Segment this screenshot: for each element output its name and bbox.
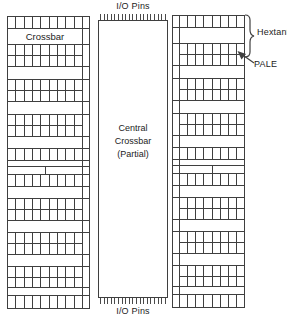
cell	[40, 149, 48, 160]
blank-area	[180, 66, 244, 78]
cell	[228, 295, 236, 307]
cell	[236, 198, 244, 208]
connection-rail	[173, 44, 180, 65]
connection-rail	[82, 199, 89, 220]
grid-band	[8, 149, 89, 161]
grid-band	[173, 16, 244, 28]
cell	[32, 17, 40, 28]
cell	[24, 45, 32, 55]
cell	[195, 174, 203, 185]
cell	[187, 125, 195, 135]
cell-row	[8, 115, 82, 125]
connection-rail	[173, 136, 180, 147]
cell-row	[8, 55, 82, 66]
cell	[236, 90, 244, 100]
cell	[24, 17, 32, 28]
cell-row	[180, 148, 244, 159]
cell-row	[180, 114, 244, 124]
cell	[45, 167, 83, 174]
cell	[57, 210, 65, 220]
connection-rail	[82, 296, 89, 308]
cell	[15, 56, 23, 66]
cell	[8, 126, 15, 136]
cell	[40, 17, 48, 28]
cell	[65, 17, 73, 28]
cell	[236, 243, 244, 253]
cell	[228, 125, 236, 135]
split-row	[180, 166, 244, 173]
connection-rail	[82, 175, 89, 186]
grid-cells	[180, 44, 244, 65]
cell	[212, 198, 220, 208]
connection-rail	[82, 115, 89, 136]
cell	[57, 244, 65, 254]
cell	[8, 199, 15, 209]
cell	[236, 114, 244, 124]
cell	[49, 80, 57, 90]
cell-row	[8, 175, 82, 186]
cell	[8, 244, 15, 254]
cell	[187, 90, 195, 100]
cell-row	[180, 54, 244, 65]
cell	[195, 277, 203, 287]
grid-band	[173, 232, 244, 254]
cell	[57, 17, 65, 28]
blank-band	[8, 67, 89, 80]
grid-cells	[8, 17, 82, 28]
cell	[8, 210, 15, 220]
connection-rail	[82, 255, 89, 266]
blank-band	[173, 220, 244, 232]
cell	[74, 126, 82, 136]
connection-rail	[82, 45, 89, 66]
cell	[24, 267, 32, 277]
cell	[8, 45, 15, 55]
cell	[180, 232, 187, 242]
cell	[228, 44, 236, 54]
cell	[228, 174, 236, 185]
grid-cells	[180, 16, 244, 27]
cell-row	[8, 17, 82, 28]
cell	[220, 209, 228, 219]
cell-row	[180, 198, 244, 208]
blank-band	[173, 186, 244, 198]
cell	[49, 115, 57, 125]
cell	[228, 243, 236, 253]
cell	[49, 149, 57, 160]
cell-row	[8, 233, 82, 243]
cell	[236, 125, 244, 135]
blank-area	[180, 101, 244, 113]
grid-band	[173, 44, 244, 66]
cell	[24, 126, 32, 136]
connection-rail	[173, 16, 180, 27]
blank-band	[8, 102, 89, 115]
cell	[220, 277, 228, 287]
cell	[15, 233, 23, 243]
cell	[187, 44, 195, 54]
connection-rail	[82, 167, 89, 174]
grid-band	[8, 267, 89, 288]
cell	[32, 126, 40, 136]
connection-rail	[82, 233, 89, 254]
cell	[40, 91, 48, 101]
grid-band	[173, 266, 244, 287]
cell	[15, 267, 23, 277]
cell	[203, 232, 211, 242]
cell	[212, 90, 220, 100]
cell	[57, 91, 65, 101]
cell	[49, 91, 57, 101]
cell	[32, 175, 40, 186]
cell	[8, 296, 15, 308]
grid-cells	[180, 174, 244, 185]
blank-band	[8, 187, 89, 199]
cell	[228, 232, 236, 242]
cell	[74, 210, 82, 220]
cell	[180, 266, 187, 276]
cell	[187, 266, 195, 276]
connection-rail	[82, 80, 89, 101]
cell	[74, 17, 82, 28]
cell	[49, 233, 57, 243]
cell	[195, 198, 203, 208]
cell	[57, 233, 65, 243]
cell	[228, 266, 236, 276]
connection-rail	[82, 67, 89, 79]
